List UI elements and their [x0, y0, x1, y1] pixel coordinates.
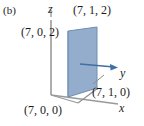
point-label-7-1-2: (7, 1, 2)	[73, 4, 111, 16]
point-label-7-1-0: (7, 1, 0)	[92, 86, 130, 98]
z-axis-label: z	[48, 3, 53, 15]
figure-panel-b: (b) z y x (7, 1, 2) (7, 0, 2) (7, 1, 0) …	[0, 0, 144, 126]
point-label-7-0-0: (7, 0, 0)	[24, 104, 62, 116]
y-axis-label: y	[120, 67, 125, 79]
point-label-7-0-2: (7, 0, 2)	[21, 26, 59, 38]
y-axis-arrowhead	[110, 64, 118, 71]
x-axis-label: x	[119, 102, 124, 114]
panel-label: (b)	[3, 5, 16, 16]
